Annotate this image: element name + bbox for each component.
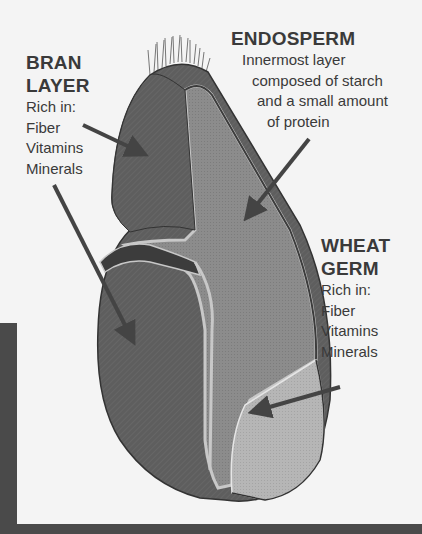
endosperm-description: Innermost layer composed of starch and a… — [226, 50, 388, 132]
bran-layer-label: BRAN LAYER Rich in: Fiber Vitamins Miner… — [26, 51, 90, 179]
endosperm-label: ENDOSPERM Innermost layer composed of st… — [226, 27, 388, 132]
germ-title: WHEAT GERM — [321, 234, 390, 280]
endosperm-title: ENDOSPERM — [226, 27, 388, 50]
bran-description: Rich in: Fiber Vitamins Minerals — [26, 97, 90, 179]
bran-flap — [112, 74, 195, 232]
bran-title: BRAN LAYER — [26, 51, 90, 97]
germ-description: Rich in: Fiber Vitamins Minerals — [321, 280, 390, 362]
wheat-germ-label: WHEAT GERM Rich in: Fiber Vitamins Miner… — [321, 234, 390, 362]
